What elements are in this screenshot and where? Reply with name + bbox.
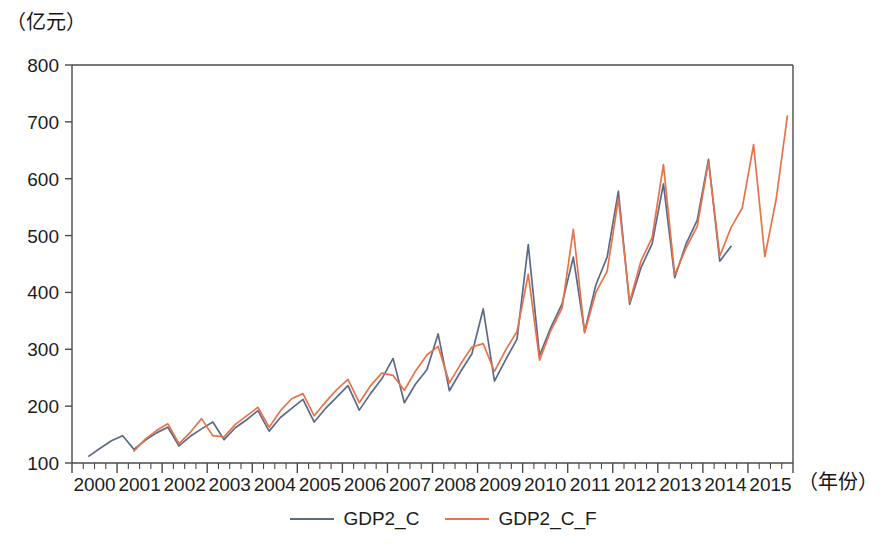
x-axis-tick-label: 2009 — [479, 474, 521, 495]
x-axis-tick-label: 2010 — [524, 474, 566, 495]
series-line-gdp2-c-f — [134, 116, 787, 451]
y-axis-tick-label: 400 — [27, 282, 59, 303]
y-axis-tick-label: 300 — [27, 339, 59, 360]
legend-label-gdp2-c: GDP2_C — [343, 509, 419, 528]
x-axis-tick-label: 2006 — [344, 474, 386, 495]
legend-entry-gdp2-c-f: GDP2_C_F — [445, 509, 596, 528]
y-axis-tick-label: 700 — [27, 112, 59, 133]
x-axis-tick-label: 2004 — [254, 474, 297, 495]
chart-container: （亿元） （年份） 100200300400500600700800200020… — [0, 0, 887, 546]
legend-entry-gdp2-c: GDP2_C — [290, 509, 419, 528]
x-axis-tick-label: 2000 — [73, 474, 115, 495]
x-axis-tick-label: 2007 — [389, 474, 431, 495]
y-axis-tick-label: 600 — [27, 169, 59, 190]
legend-swatch-gdp2-c — [290, 518, 334, 520]
y-axis-tick-label: 100 — [27, 453, 59, 474]
x-axis-tick-label: 2011 — [570, 474, 611, 495]
line-chart-plot: 1002003004005006007008002000200120022003… — [0, 0, 887, 546]
x-axis-tick-label: 2001 — [118, 474, 160, 495]
x-axis-tick-label: 2013 — [659, 474, 701, 495]
x-axis-tick-label: 2005 — [299, 474, 341, 495]
x-axis-tick-label: 2015 — [749, 474, 791, 495]
y-axis-tick-label: 200 — [27, 396, 59, 417]
legend-label-gdp2-c-f: GDP2_C_F — [498, 509, 596, 528]
legend-swatch-gdp2-c-f — [445, 518, 489, 520]
x-axis-tick-label: 2002 — [164, 474, 206, 495]
x-axis-tick-label: 2014 — [704, 474, 747, 495]
y-axis-tick-label: 800 — [27, 55, 59, 76]
x-axis-tick-label: 2003 — [209, 474, 251, 495]
x-axis-tick-label: 2012 — [614, 474, 656, 495]
series-line-gdp2-c — [89, 159, 731, 456]
y-axis-tick-label: 500 — [27, 226, 59, 247]
x-axis-tick-label: 2008 — [434, 474, 476, 495]
chart-legend: GDP2_C GDP2_C_F — [0, 509, 887, 528]
